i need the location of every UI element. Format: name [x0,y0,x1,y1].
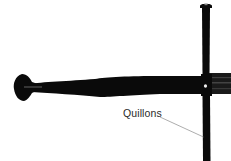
pommel [14,74,42,101]
blade [209,73,231,94]
sword-illustration [0,0,231,161]
leader-line [160,117,204,137]
grip [30,76,205,97]
quillon [200,4,212,161]
quillons-label: Quillons [123,108,162,119]
sword-hilt-diagram: Quillons [0,0,231,161]
